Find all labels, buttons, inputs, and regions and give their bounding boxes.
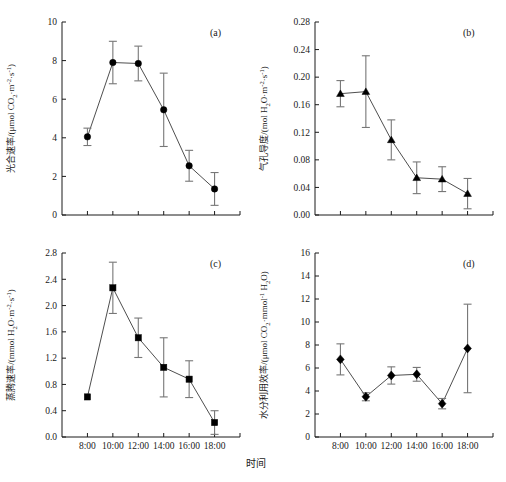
x-tick-label: 18:00 bbox=[457, 441, 479, 451]
figure-container: 0246810光合速率/(μmol CO2·m-2·s-1)(a)0.000.0… bbox=[0, 0, 506, 482]
y-tick-label: 4 bbox=[305, 386, 310, 396]
y-tick-label: 2.4 bbox=[45, 275, 57, 285]
y-tick-label: 0.20 bbox=[293, 72, 310, 82]
panel-label: (c) bbox=[210, 258, 221, 270]
figure-caption-partial bbox=[0, 474, 506, 482]
data-point-marker bbox=[464, 344, 472, 353]
data-point-marker bbox=[110, 285, 116, 291]
y-tick-label: 6 bbox=[52, 95, 57, 105]
chart-panel-c: 0.00.40.81.21.62.02.42.88:0010:0012:0014… bbox=[0, 235, 253, 482]
y-tick-label: 0.8 bbox=[45, 380, 57, 390]
data-point-marker bbox=[135, 335, 141, 341]
y-tick-label: 2 bbox=[52, 172, 57, 182]
y-tick-label: 8 bbox=[52, 56, 57, 66]
data-point-marker bbox=[84, 394, 90, 400]
y-tick-label: 0.08 bbox=[293, 155, 310, 165]
y-tick-label: 0.00 bbox=[293, 210, 310, 220]
data-point-marker bbox=[211, 419, 217, 425]
axis-spines bbox=[315, 253, 493, 437]
y-tick-label: 10 bbox=[48, 17, 58, 27]
y-tick-label: 0 bbox=[52, 210, 57, 220]
y-tick-label: 1.2 bbox=[45, 353, 57, 363]
y-axis-label: 蒸腾速率/(mmol H2O·m-2·s-1) bbox=[5, 289, 18, 401]
axis-spines bbox=[315, 22, 493, 215]
x-tick-label: 16:00 bbox=[178, 441, 200, 451]
y-tick-label: 0.0 bbox=[45, 432, 57, 442]
data-point-marker bbox=[186, 376, 192, 382]
chart-panel-b: 0.000.040.080.120.160.200.240.28气孔导度/(mo… bbox=[253, 0, 506, 241]
series-line bbox=[87, 288, 214, 423]
x-tick-label: 10:00 bbox=[102, 441, 124, 451]
chart-panel-d: 02468101214168:0010:0012:0014:0016:0018:… bbox=[253, 235, 506, 482]
x-tick-label: 14:00 bbox=[153, 441, 175, 451]
y-tick-label: 16 bbox=[301, 248, 311, 258]
y-tick-label: 0.24 bbox=[293, 45, 310, 55]
y-tick-label: 2.8 bbox=[45, 248, 57, 258]
x-tick-label: 12:00 bbox=[380, 441, 402, 451]
y-axis-label: 光合速率/(μmol CO2·m-2·s-1) bbox=[5, 64, 18, 173]
series-line bbox=[340, 348, 467, 403]
data-point-marker bbox=[387, 371, 395, 380]
y-tick-label: 0.16 bbox=[293, 100, 310, 110]
y-axis-label: 气孔导度/(mol H2O·m-2·s-1) bbox=[258, 66, 271, 171]
data-point-marker bbox=[161, 364, 167, 370]
panel-label: (a) bbox=[210, 27, 221, 39]
data-point-marker bbox=[387, 136, 395, 143]
data-point-marker bbox=[186, 163, 192, 169]
data-point-marker bbox=[160, 107, 166, 113]
series-line bbox=[87, 63, 214, 189]
y-tick-label: 8 bbox=[305, 340, 310, 350]
x-tick-label: 8:00 bbox=[332, 441, 349, 451]
y-tick-label: 0.28 bbox=[293, 17, 310, 27]
data-point-marker bbox=[211, 186, 217, 192]
y-tick-label: 0.04 bbox=[293, 183, 310, 193]
x-tick-label: 14:00 bbox=[406, 441, 428, 451]
y-tick-label: 2.0 bbox=[45, 301, 57, 311]
axis-spines bbox=[62, 253, 240, 437]
chart-panel-a: 0246810光合速率/(μmol CO2·m-2·s-1)(a) bbox=[0, 0, 253, 241]
data-point-marker bbox=[362, 392, 370, 401]
data-point-marker bbox=[337, 355, 345, 364]
y-tick-label: 2 bbox=[305, 409, 310, 419]
x-tick-label: 8:00 bbox=[79, 441, 96, 451]
x-tick-label: 12:00 bbox=[127, 441, 149, 451]
series-line bbox=[340, 92, 467, 194]
y-axis-label: 水分利用效率/(μmol CO2·mmol-1 H2O) bbox=[258, 271, 271, 418]
y-tick-label: 0 bbox=[305, 432, 310, 442]
y-tick-label: 0.12 bbox=[293, 128, 310, 138]
x-tick-label: 16:00 bbox=[431, 441, 453, 451]
data-point-marker bbox=[464, 190, 472, 197]
data-point-marker bbox=[413, 174, 421, 181]
y-tick-label: 6 bbox=[305, 363, 310, 373]
panel-label: (d) bbox=[463, 258, 475, 270]
x-tick-label: 18:00 bbox=[204, 441, 226, 451]
y-tick-label: 14 bbox=[301, 271, 311, 281]
x-tick-label: 10:00 bbox=[355, 441, 377, 451]
x-axis-title: 时间 bbox=[246, 455, 266, 470]
data-point-marker bbox=[362, 88, 370, 95]
y-tick-label: 1.6 bbox=[45, 327, 57, 337]
panel-label: (b) bbox=[463, 27, 475, 39]
data-point-marker bbox=[84, 134, 90, 140]
y-tick-label: 4 bbox=[52, 133, 57, 143]
y-tick-label: 0.4 bbox=[45, 406, 57, 416]
data-point-marker bbox=[135, 60, 141, 66]
y-tick-label: 12 bbox=[301, 294, 311, 304]
data-point-marker bbox=[110, 59, 116, 65]
y-tick-label: 10 bbox=[301, 317, 311, 327]
